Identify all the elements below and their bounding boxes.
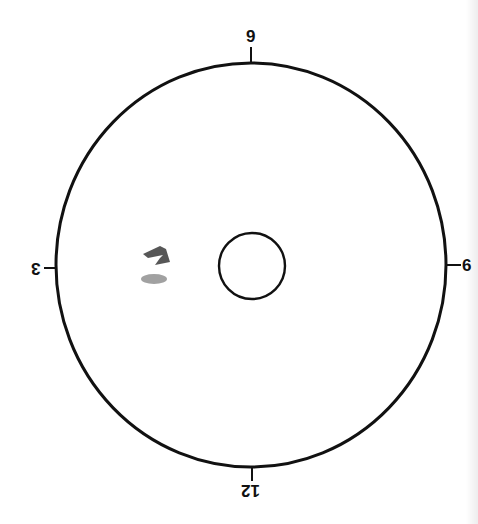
inner-circle [219, 233, 285, 299]
pencil-mark-upper [143, 246, 170, 265]
outer-circle [56, 63, 446, 467]
label-left: 3 [31, 260, 40, 277]
label-top: 9 [246, 28, 255, 45]
clock-dial [0, 0, 478, 524]
pencil-smudge-lower [141, 274, 167, 284]
label-right: 6 [462, 257, 471, 274]
label-bottom: 12 [241, 482, 260, 499]
